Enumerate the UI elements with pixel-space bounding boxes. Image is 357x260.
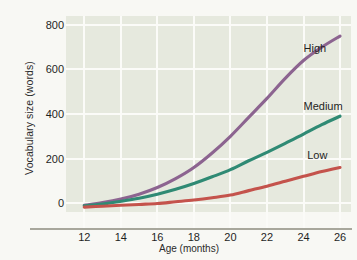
x-tick-label: 16 xyxy=(142,231,172,243)
x-tick-label: 22 xyxy=(252,231,282,243)
series-line-high xyxy=(84,36,340,205)
series-label-low: Low xyxy=(307,149,327,161)
y-tick-label: 0 xyxy=(30,197,64,209)
series-label-high: High xyxy=(304,42,327,54)
x-tick-label: 20 xyxy=(215,231,245,243)
figure: Vocabulary size (words) 0200400600800 12… xyxy=(0,0,357,260)
y-tick-label: 400 xyxy=(30,108,64,120)
x-tick-label: 12 xyxy=(69,231,99,243)
x-axis-label: Age (months) xyxy=(28,243,350,254)
y-tick-label: 200 xyxy=(30,153,64,165)
series-label-medium: Medium xyxy=(304,100,343,112)
x-tick-label: 14 xyxy=(106,231,136,243)
x-axis-line xyxy=(30,228,352,230)
x-tick-label: 26 xyxy=(325,231,355,243)
y-tick-label: 800 xyxy=(30,19,64,31)
x-tick-label: 24 xyxy=(289,231,319,243)
y-axis-tick-labels: 0200400600800 xyxy=(28,0,64,260)
y-tick-label: 600 xyxy=(30,63,64,75)
x-tick-label: 18 xyxy=(179,231,209,243)
series-line-medium xyxy=(84,116,340,206)
